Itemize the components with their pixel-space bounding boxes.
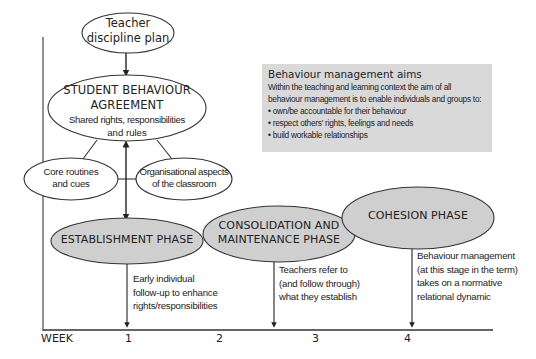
desc-line: rights/responsibilities — [133, 299, 218, 313]
consolidation-line2: MAINTENANCE PHASE — [203, 233, 355, 247]
consolidation-description: Teachers refer to (and follow through) w… — [279, 263, 360, 304]
teacher-plan-line1: Teacher — [82, 16, 174, 31]
week-tick-2: 2 — [216, 332, 223, 345]
aims-box: Behaviour management aims Within the tea… — [262, 64, 492, 152]
week-tick-4: 4 — [404, 332, 411, 345]
week-axis-label: WEEK — [41, 332, 73, 345]
desc-line: takes on a normative — [417, 276, 518, 290]
agreement-sub-line1: Shared rights, responsibilities — [48, 113, 206, 126]
aims-body: Within the teaching and learning context… — [268, 81, 486, 141]
consolidation-phase-label: CONSOLIDATION AND MAINTENANCE PHASE — [203, 219, 355, 247]
cohesion-phase-label: COHESION PHASE — [342, 210, 494, 223]
core-routines-label: Core routines and cues — [24, 166, 118, 190]
aims-bullet: build workable relationships — [268, 129, 486, 141]
teacher-plan-label: Teacher discipline plan — [82, 16, 174, 46]
establishment-phase-label: ESTABLISHMENT PHASE — [51, 234, 203, 247]
desc-line: (at this stage in the term) — [417, 263, 518, 277]
week-tick-1: 1 — [125, 332, 132, 345]
agreement-sub-line2: and rules — [48, 126, 206, 139]
agreement-to-core-line — [83, 140, 97, 159]
desc-line: Behaviour management — [417, 249, 518, 263]
teacher-plan-line2: discipline plan — [82, 31, 174, 46]
desc-line: follow-up to enhance — [133, 286, 218, 300]
aims-bullet: respect others' rights, feelings and nee… — [268, 117, 486, 129]
core-routines-line2: and cues — [24, 178, 118, 190]
week-tick-3: 3 — [312, 332, 319, 345]
agreement-title-line2: AGREEMENT — [48, 98, 206, 113]
desc-line: Early individual — [133, 272, 218, 286]
desc-line: (and follow through) — [279, 277, 360, 291]
establishment-description: Early individual follow-up to enhance ri… — [133, 272, 218, 313]
desc-line: what they establish — [279, 290, 360, 304]
organisational-label: Organisational aspects of the classroom — [136, 166, 232, 190]
desc-line: relational dynamic — [417, 290, 518, 304]
organisational-line2: of the classroom — [136, 178, 232, 190]
desc-line: Teachers refer to — [279, 263, 360, 277]
agreement-title-line1: STUDENT BEHAVIOUR — [48, 83, 206, 98]
core-routines-line1: Core routines — [24, 166, 118, 178]
agreement-to-org-line — [157, 140, 172, 159]
aims-intro-line1: Within the teaching and learning context… — [268, 81, 486, 93]
consolidation-line1: CONSOLIDATION AND — [203, 219, 355, 233]
aims-intro-line2: behaviour management is to enable indivi… — [268, 93, 486, 105]
aims-bullet: own/be accountable for their behaviour — [268, 105, 486, 117]
aims-title: Behaviour management aims — [268, 68, 486, 80]
organisational-line1: Organisational aspects — [136, 166, 232, 178]
aims-bullets: own/be accountable for their behaviour r… — [268, 105, 486, 141]
agreement-label: STUDENT BEHAVIOUR AGREEMENT Shared right… — [48, 83, 206, 139]
cohesion-description: Behaviour management (at this stage in t… — [417, 249, 518, 303]
